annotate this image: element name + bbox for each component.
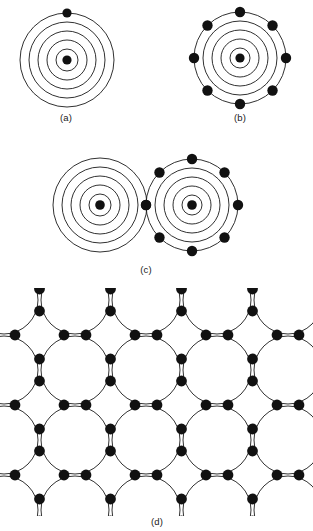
lattice-bond-v-r3-c4-e1	[201, 470, 212, 481]
lattice-bond-v-r2-c1-e2	[10, 400, 21, 411]
lattice-bond-h-r2-c1-e1	[34, 354, 45, 365]
panel-d-caption: (d)	[137, 516, 177, 527]
lattice-bond-v-r2-c4-e1	[201, 400, 212, 411]
lattice-bond-h-r1-c2-e2	[105, 306, 116, 317]
lattice-bond-h-r2-c3-e1	[176, 354, 187, 365]
panel-b-electron-2	[267, 20, 277, 30]
panel-a-nucleus	[62, 55, 71, 64]
lattice-bond-v-r3-c2-e2	[81, 470, 92, 481]
lattice-atom-r1-c5	[254, 288, 313, 334]
lattice-bond-h-r1-c2-e1	[105, 288, 116, 294]
lattice-bond-v-r3-c5-e2	[294, 470, 305, 481]
panel-c-left-nucleus	[95, 200, 105, 210]
lattice-bond-h-r3-c4-e2	[247, 446, 258, 457]
lattice-bond-h-r4-c3-e1	[176, 494, 187, 505]
lattice-atom-r4-c4	[183, 476, 251, 516]
panel-b	[170, 0, 313, 125]
lattice-bond-v-r2-c5-e1	[272, 400, 283, 411]
lattice-bond-h-r4-c4-e1	[247, 494, 258, 505]
lattice-bond-v-r2-c3-e2	[152, 400, 163, 411]
panel-c-right-electron-6	[154, 232, 164, 242]
lattice-atom-r3-c2	[41, 406, 109, 474]
lattice-atom-r2-c4	[183, 336, 251, 404]
lattice-bond-v-r1-c5-e2	[294, 330, 305, 341]
lattice-bond-v-r1-c4-e2	[223, 330, 234, 341]
lattice-bond-v-r2-c2-e2	[81, 400, 92, 411]
lattice-bond-v-r2-c2-e1	[59, 400, 70, 411]
lattice-atom-r3-c3	[112, 406, 180, 474]
lattice-atom-r1-c3	[112, 288, 180, 334]
lattice-bond-h-r3-c1-e1	[34, 424, 45, 435]
panel-c-right-electron-4	[219, 232, 229, 242]
lattice-bond-h-r2-c4-e2	[247, 376, 258, 387]
lattice-bond-v-r3-c1-e2	[10, 470, 21, 481]
lattice-atom-r4-c5	[254, 476, 313, 516]
panel-a	[0, 0, 140, 125]
lattice-bond-v-r1-c3-e2	[152, 330, 163, 341]
lattice-bond-h-r2-c2-e2	[105, 376, 116, 387]
lattice-bond-v-r3-c3-e1	[130, 470, 141, 481]
lattice-atom-r4-c3	[112, 476, 180, 516]
lattice-bond-v-r1-c5-e1	[272, 330, 283, 341]
lattice-bond-v-r1-c4-e1	[201, 330, 212, 341]
lattice-bond-v-r1-c3-e1	[130, 330, 141, 341]
panel-b-drawing	[170, 0, 313, 125]
panel-c-right-electron-3	[233, 200, 243, 210]
lattice-bond-h-r1-c4-e1	[247, 288, 258, 294]
panel-c-shared-electron	[141, 200, 151, 210]
panel-b-electron-1	[235, 7, 245, 17]
panel-b-caption: (b)	[220, 112, 260, 123]
lattice-bond-h-r1-c3-e2	[176, 306, 187, 317]
panel-c-right-electron-2	[219, 167, 229, 177]
panel-a-caption: (a)	[46, 112, 86, 123]
lattice-bond-h-r2-c2-e1	[105, 354, 116, 365]
lattice-bond-v-r3-c2-e1	[59, 470, 70, 481]
lattice-atom-r2-c2	[41, 336, 109, 404]
lattice-bond-h-r4-c2-e1	[105, 494, 116, 505]
lattice-bond-h-r3-c1-e2	[34, 446, 45, 457]
panel-b-electron-7	[189, 53, 199, 63]
panel-c-drawing	[0, 140, 313, 265]
lattice-bond-v-r2-c4-e2	[223, 400, 234, 411]
lattice-atom-r4-c1	[0, 476, 38, 516]
lattice-bond-h-r1-c1-e1	[34, 288, 45, 294]
lattice-bond-h-r2-c4-e1	[247, 354, 258, 365]
panel-c-right-nucleus	[187, 200, 197, 210]
lattice-atom-r4-c2	[41, 476, 109, 516]
lattice-bond-v-r3-c4-e2	[223, 470, 234, 481]
lattice-bond-v-r2-c5-e2	[294, 400, 305, 411]
lattice-atom-r3-c5	[254, 406, 313, 474]
lattice-bond-h-r3-c2-e1	[105, 424, 116, 435]
lattice-bond-h-r2-c1-e2	[34, 376, 45, 387]
panel-c-right-electron-5	[187, 246, 197, 256]
panel-b-electron-4	[267, 85, 277, 95]
panel-d	[0, 288, 313, 516]
lattice-atom-r2-c1	[0, 336, 38, 404]
lattice-atom-r1-c1	[0, 288, 38, 334]
lattice-atom-r2-c5	[254, 336, 313, 404]
lattice-bond-v-r1-c2-e2	[81, 330, 92, 341]
panel-b-nucleus	[235, 53, 244, 62]
panel-d-drawing	[0, 288, 313, 516]
lattice-atom-r1-c2	[41, 288, 109, 334]
lattice-atom-r2-c3	[112, 336, 180, 404]
lattice-bond-v-r3-c5-e1	[272, 470, 283, 481]
panel-a-drawing	[0, 0, 140, 125]
lattice-bond-v-r2-c3-e1	[130, 400, 141, 411]
lattice-bond-v-r1-c1-e2	[10, 330, 21, 341]
panel-b-electron-3	[281, 53, 291, 63]
panel-b-electron-5	[235, 99, 245, 109]
lattice-bond-h-r1-c3-e1	[176, 288, 187, 294]
lattice-bond-h-r3-c3-e2	[176, 446, 187, 457]
lattice-bond-h-r1-c1-e2	[34, 306, 45, 317]
panel-b-electron-8	[202, 20, 212, 30]
lattice-bond-v-r1-c2-e1	[59, 330, 70, 341]
panel-c-right-electron-8	[154, 167, 164, 177]
lattice-bond-h-r1-c4-e2	[247, 306, 258, 317]
atomic-bonding-figure: (a) (b) (c) (d)	[0, 0, 313, 531]
lattice-atom-r1-c4	[183, 288, 251, 334]
lattice-atom-r3-c1	[0, 406, 38, 474]
panel-a-electron-1	[62, 8, 71, 17]
lattice-bond-h-r3-c3-e1	[176, 424, 187, 435]
lattice-atom-r3-c4	[183, 406, 251, 474]
